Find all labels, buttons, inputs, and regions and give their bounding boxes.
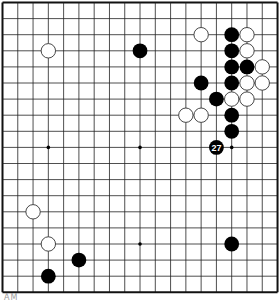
move-number-label: 27 bbox=[211, 143, 221, 153]
black-stone[interactable] bbox=[224, 76, 239, 91]
black-stone[interactable] bbox=[41, 269, 56, 284]
star-point bbox=[138, 242, 142, 246]
go-board[interactable]: 27 bbox=[0, 0, 280, 296]
white-stone[interactable] bbox=[255, 76, 269, 90]
white-stone[interactable] bbox=[194, 108, 208, 122]
black-stone[interactable] bbox=[224, 108, 239, 123]
black-stone[interactable] bbox=[224, 60, 239, 75]
stones-layer: 27 bbox=[26, 27, 270, 283]
black-stone[interactable] bbox=[224, 43, 239, 58]
star-point bbox=[47, 146, 51, 150]
white-stone[interactable] bbox=[179, 108, 193, 122]
white-stone[interactable] bbox=[240, 92, 254, 106]
white-stone[interactable] bbox=[41, 237, 55, 251]
black-stone[interactable] bbox=[224, 124, 239, 139]
white-stone[interactable] bbox=[240, 44, 254, 58]
star-point bbox=[138, 146, 142, 150]
black-stone[interactable] bbox=[240, 60, 255, 75]
white-stone[interactable] bbox=[194, 28, 208, 42]
white-stone[interactable] bbox=[26, 205, 40, 219]
diagram-caption: AM bbox=[4, 293, 18, 302]
black-stone[interactable] bbox=[72, 253, 87, 268]
white-stone[interactable] bbox=[41, 44, 55, 58]
white-stone[interactable] bbox=[240, 28, 254, 42]
star-point bbox=[230, 146, 234, 150]
white-stone[interactable] bbox=[240, 76, 254, 90]
white-stone[interactable] bbox=[255, 60, 269, 74]
black-stone[interactable]: 27 bbox=[209, 140, 224, 155]
black-stone[interactable] bbox=[133, 43, 148, 58]
black-stone[interactable] bbox=[224, 27, 239, 42]
black-stone[interactable] bbox=[194, 76, 209, 91]
black-stone[interactable] bbox=[224, 237, 239, 252]
black-stone[interactable] bbox=[209, 92, 224, 107]
white-stone[interactable] bbox=[225, 92, 239, 106]
